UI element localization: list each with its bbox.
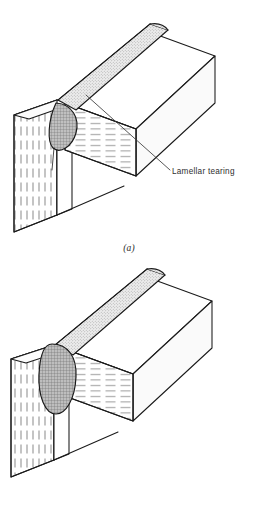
figure-a-caption: (a) bbox=[0, 243, 258, 253]
figure-b: (b) bbox=[0, 262, 258, 522]
figure-page: Lamellar tearing (a) bbox=[0, 0, 258, 522]
figure-a-illustration bbox=[0, 0, 258, 245]
lamellar-tear-shape bbox=[39, 344, 76, 414]
figure-b-illustration bbox=[0, 262, 258, 497]
lamellar-tearing-label: Lamellar tearing bbox=[172, 167, 235, 176]
figure-a: Lamellar tearing (a) bbox=[0, 0, 258, 266]
